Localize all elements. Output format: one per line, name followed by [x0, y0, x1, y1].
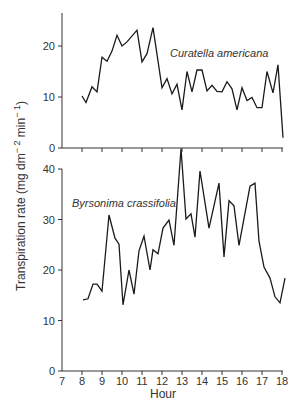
y-axis-title-min: min — [14, 118, 28, 141]
top-panel: 01020 Curatella americana — [43, 13, 283, 154]
x-tick-label: 9 — [99, 375, 105, 387]
x-tick-label: 10 — [116, 375, 128, 387]
x-tick-label: 17 — [256, 375, 268, 387]
top-species-label: Curatella americana — [170, 47, 268, 59]
x-tick-label: 7 — [59, 375, 65, 387]
x-tick-label: 8 — [79, 375, 85, 387]
transpiration-chart: 01020 Curatella americana 010203040 7891… — [0, 0, 300, 415]
x-axis-title: Hour — [150, 387, 176, 401]
y-axis-exponent-1: − 2 — [12, 141, 22, 154]
y-axis-title-close: ) — [14, 101, 28, 105]
y-tick-label: 0 — [49, 365, 55, 377]
y-tick-label: 20 — [43, 40, 55, 52]
x-tick-label: 18 — [276, 375, 288, 387]
x-tick-label: 15 — [216, 375, 228, 387]
y-tick-label: 10 — [43, 315, 55, 327]
y-axis-title-main: Transpiration rate (mg dm — [14, 153, 28, 291]
y-axis-exponent-2: − 1 — [12, 105, 22, 118]
x-tick-label: 12 — [156, 375, 168, 387]
bottom-y-ticks: 010203040 — [43, 163, 62, 377]
y-tick-label: 40 — [43, 163, 55, 175]
bottom-panel: 010203040 789101112131415161718 Byrsonim… — [43, 149, 288, 387]
curatella-americana-line — [82, 28, 283, 138]
x-tick-label: 11 — [136, 375, 147, 387]
top-x-ticks — [82, 148, 282, 152]
x-tick-label: 14 — [196, 375, 208, 387]
y-tick-label: 20 — [43, 264, 55, 276]
x-tick-label: 16 — [236, 375, 248, 387]
y-tick-label: 0 — [49, 142, 55, 154]
y-tick-label: 30 — [43, 214, 55, 226]
bottom-x-ticks: 789101112131415161718 — [59, 371, 288, 387]
bottom-species-label: Byrsonima crassifolia — [72, 197, 176, 209]
x-tick-label: 13 — [176, 375, 188, 387]
y-axis-title: Transpiration rate (mg dm− 2 min− 1) — [12, 101, 28, 291]
byrsonima-crassifolia-line — [83, 149, 285, 305]
y-tick-label: 10 — [43, 91, 55, 103]
top-y-ticks: 01020 — [43, 40, 62, 154]
